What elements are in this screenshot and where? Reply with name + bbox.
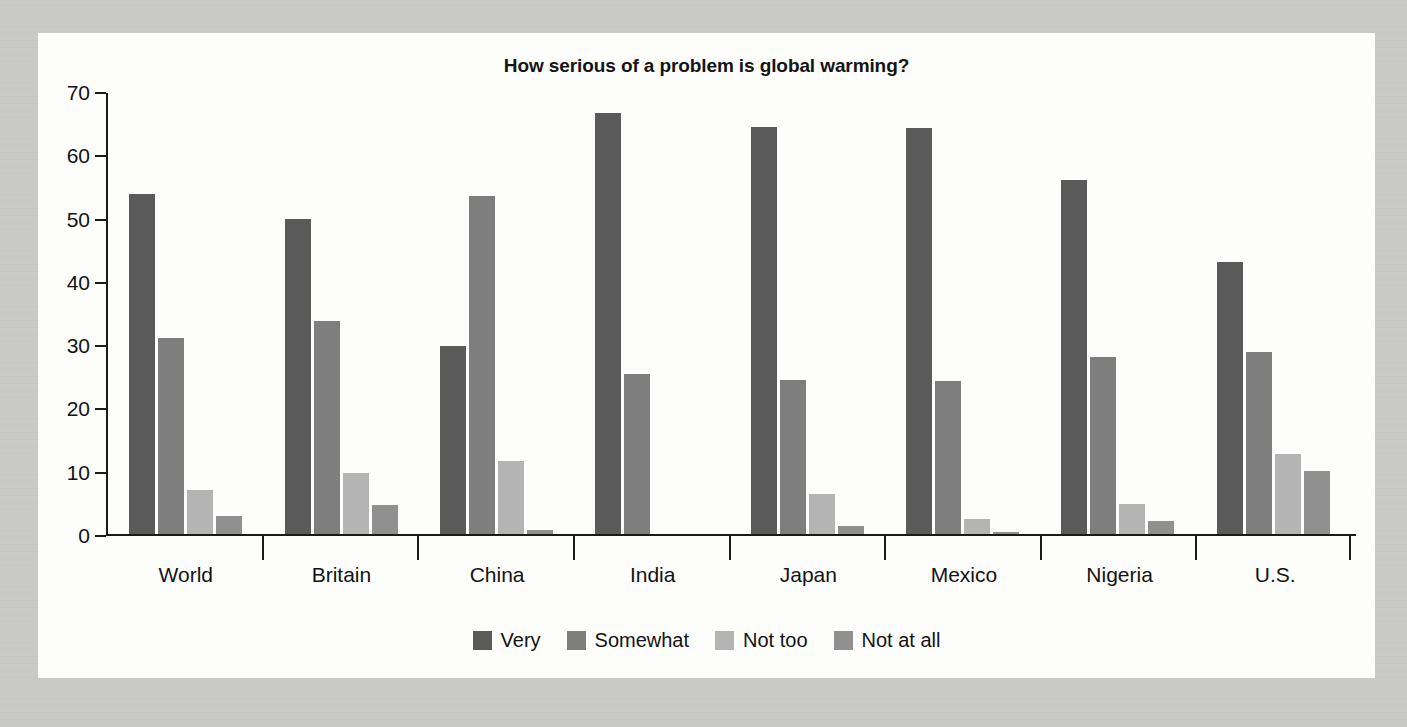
legend-label: Not too [743, 629, 807, 652]
x-axis-separator [417, 536, 419, 560]
legend-label: Very [501, 629, 541, 652]
y-axis-tick-label: 50 [67, 208, 90, 232]
bar [187, 490, 213, 534]
bar [314, 321, 340, 534]
y-axis-tick-label: 60 [67, 144, 90, 168]
y-axis-tick [95, 472, 106, 474]
bar [1090, 357, 1116, 534]
bar [1217, 262, 1243, 534]
bar-group [1196, 93, 1351, 534]
bar-group [419, 93, 574, 534]
bar [906, 128, 932, 534]
chart-card: How serious of a problem is global warmi… [38, 33, 1375, 678]
bar [158, 338, 184, 534]
bar [498, 461, 524, 534]
y-axis-tick [95, 155, 106, 157]
bar [1246, 352, 1272, 534]
bar [1275, 454, 1301, 534]
bar [1119, 504, 1145, 534]
bar [751, 127, 777, 534]
x-axis-separator [729, 536, 731, 560]
y-axis-tick-label: 70 [67, 81, 90, 105]
bar [780, 380, 806, 534]
y-axis-tick [95, 345, 106, 347]
legend-item[interactable]: Somewhat [567, 629, 690, 652]
legend-item[interactable]: Not too [715, 629, 807, 652]
bar [285, 219, 311, 534]
bar [129, 194, 155, 534]
x-axis-separator [573, 536, 575, 560]
y-axis-tick [95, 282, 106, 284]
y-axis-tick-label: 30 [67, 334, 90, 358]
legend-swatch-icon [473, 631, 492, 650]
bar [343, 473, 369, 534]
legend-swatch-icon [567, 631, 586, 650]
bar [624, 374, 650, 534]
x-axis-label: Japan [731, 563, 887, 587]
legend-swatch-icon [834, 631, 853, 650]
x-axis-label: India [575, 563, 731, 587]
legend-label: Somewhat [595, 629, 690, 652]
x-axis-label: U.S. [1197, 563, 1353, 587]
x-axis-label: Britain [264, 563, 420, 587]
bar [595, 113, 621, 534]
bar-group [730, 93, 885, 534]
chart-legend: VerySomewhatNot tooNot at all [38, 629, 1375, 652]
bar [1061, 180, 1087, 534]
y-axis-tick-label: 40 [67, 271, 90, 295]
bar-group [108, 93, 263, 534]
y-axis-tick [95, 219, 106, 221]
y-axis-tick-label: 20 [67, 397, 90, 421]
x-axis-separator [1040, 536, 1042, 560]
bar-group [263, 93, 418, 534]
x-axis-separator [1195, 536, 1197, 560]
bar [993, 532, 1019, 534]
y-axis-tick [95, 535, 106, 537]
plot-area: 010203040506070 [106, 93, 1351, 536]
bar-group [1040, 93, 1195, 534]
bar-group [885, 93, 1040, 534]
bar [1148, 521, 1174, 534]
x-axis-label: World [108, 563, 264, 587]
x-axis-label: Mexico [886, 563, 1042, 587]
chart-title: How serious of a problem is global warmi… [38, 55, 1375, 77]
x-axis-labels: WorldBritainChinaIndiaJapanMexicoNigeria… [108, 563, 1353, 587]
bar [216, 516, 242, 534]
bar [964, 519, 990, 534]
bar [440, 346, 466, 534]
legend-item[interactable]: Very [473, 629, 541, 652]
bar [372, 505, 398, 534]
bar [527, 530, 553, 534]
y-axis-tick-label: 10 [67, 461, 90, 485]
bar-groups [108, 93, 1351, 534]
x-axis-separator [1349, 536, 1351, 560]
y-axis-tick-label: 0 [78, 524, 90, 548]
bar [809, 494, 835, 534]
x-axis-separator [262, 536, 264, 560]
x-axis-label: China [419, 563, 575, 587]
x-axis-line [106, 534, 1356, 536]
bar [838, 526, 864, 534]
y-axis-tick [95, 92, 106, 94]
bar [469, 196, 495, 534]
y-axis-tick [95, 408, 106, 410]
x-axis-separator [884, 536, 886, 560]
legend-label: Not at all [862, 629, 941, 652]
bar-group [574, 93, 729, 534]
bar [935, 381, 961, 534]
legend-item[interactable]: Not at all [834, 629, 941, 652]
bar [1304, 471, 1330, 534]
legend-swatch-icon [715, 631, 734, 650]
x-axis-label: Nigeria [1042, 563, 1198, 587]
